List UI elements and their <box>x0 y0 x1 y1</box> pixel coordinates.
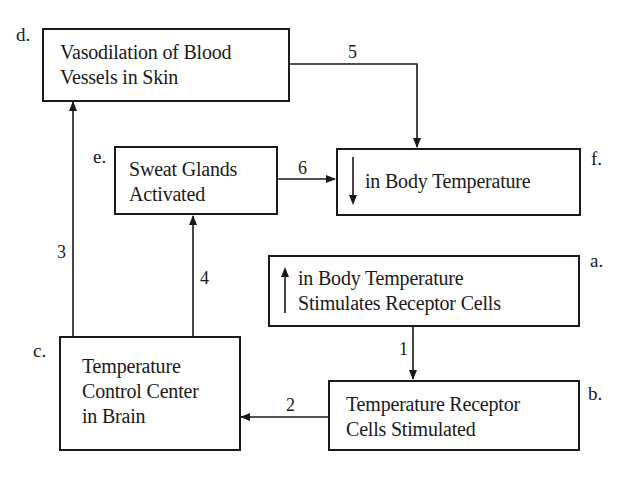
node-f-line-1: in Body Temperature <box>365 169 531 194</box>
node-e-sweat-glands: Sweat Glands Activated <box>114 146 278 215</box>
temperature-feedback-diagram: 1 2 3 4 5 6 d. Vasodilation of Blood Ves… <box>0 0 637 477</box>
edge-label-3: 3 <box>57 242 66 263</box>
node-d-vasodilation: Vasodilation of Blood Vessels in Skin <box>42 28 290 102</box>
up-arrow-icon <box>279 267 291 315</box>
arrow-5-d-to-f <box>290 64 417 147</box>
node-b-receptor-cells: Temperature Receptor Cells Stimulated <box>328 380 580 451</box>
node-b-letter: b. <box>588 383 602 405</box>
node-c-control-center: Temperature Control Center in Brain <box>59 336 241 451</box>
node-e-line-1: Sweat Glands <box>129 157 237 182</box>
node-a-line-1: in Body Temperature <box>298 266 501 291</box>
node-a-line-2: Stimulates Receptor Cells <box>298 291 501 316</box>
node-c-line-1: Temperature <box>82 354 199 379</box>
node-c-line-3: in Brain <box>82 404 199 429</box>
edge-label-6: 6 <box>298 158 307 179</box>
node-e-letter: e. <box>93 146 106 168</box>
node-b-line-1: Temperature Receptor <box>346 392 520 417</box>
node-d-line-2: Vessels in Skin <box>60 65 231 90</box>
edge-label-1: 1 <box>399 339 408 360</box>
node-e-line-2: Activated <box>129 182 237 207</box>
node-c-line-2: Control Center <box>82 379 199 404</box>
node-a-letter: a. <box>590 250 603 272</box>
node-a-increase-body-temp: in Body Temperature Stimulates Receptor … <box>268 255 580 327</box>
node-f-decrease-body-temp: in Body Temperature <box>336 148 581 216</box>
node-d-letter: d. <box>16 24 30 46</box>
node-c-letter: c. <box>33 340 46 362</box>
node-f-letter: f. <box>591 148 602 170</box>
node-b-line-2: Cells Stimulated <box>346 417 520 442</box>
edge-label-2: 2 <box>286 395 295 416</box>
edge-label-4: 4 <box>200 268 209 289</box>
edge-label-5: 5 <box>348 42 357 63</box>
node-d-line-1: Vasodilation of Blood <box>60 40 231 65</box>
down-arrow-icon <box>347 157 359 207</box>
